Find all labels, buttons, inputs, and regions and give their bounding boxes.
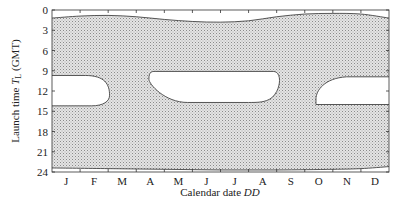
- x-tick-label: S: [288, 175, 294, 187]
- y-tick-label: 3: [43, 24, 49, 36]
- x-tick-label: M: [117, 175, 127, 187]
- x-tick-label: D: [371, 175, 379, 187]
- x-tick-label: F: [91, 175, 97, 187]
- x-axis-title: Calendar date DD: [180, 186, 259, 198]
- x-tick-label: A: [146, 175, 154, 187]
- y-tick-label: 0: [43, 4, 49, 16]
- plot-area: [50, 13, 391, 170]
- y-tick-label: 6: [43, 45, 49, 57]
- y-tick-label: 21: [37, 146, 48, 158]
- x-tick-label: J: [64, 175, 69, 187]
- x-tick-label: A: [259, 175, 267, 187]
- excluded-window-outline: [50, 75, 110, 105]
- y-tick-label: 24: [37, 166, 49, 178]
- launch-window-chart: 03691215182124 JFMAMJJASOND Calendar dat…: [0, 0, 404, 214]
- y-tick-label: 9: [43, 65, 49, 77]
- y-axis-title: Launch time TL (GMT): [9, 39, 23, 143]
- y-tick-label: 15: [37, 105, 49, 117]
- allowed-region: [50, 13, 391, 170]
- y-tick-label: 18: [37, 126, 49, 138]
- x-tick-label: O: [315, 175, 323, 187]
- x-tick-label: N: [343, 175, 351, 187]
- excluded-window-outline: [149, 71, 280, 102]
- y-tick-label: 12: [37, 85, 48, 97]
